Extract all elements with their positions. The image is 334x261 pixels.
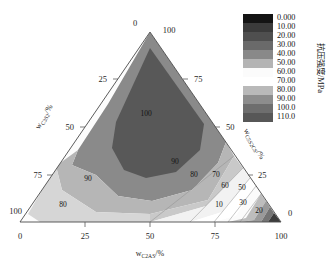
left-axis-tick-25: 25 [99, 74, 108, 84]
colorbar-label-11: 110.0 [277, 112, 295, 121]
colorbar-swatch-9 [243, 95, 273, 104]
apex-right-tick: 100 [163, 25, 176, 35]
colorbar-label-2: 20.00 [277, 31, 295, 40]
colorbar-swatch-2 [243, 32, 273, 41]
colorbar-swatches [243, 14, 273, 122]
bottom-axis-tick-100: 100 [275, 231, 288, 241]
contour-label-80-left: 80 [59, 200, 67, 209]
contour-label-10: 10 [215, 200, 223, 209]
colorbar-swatch-4 [243, 50, 273, 59]
contour-label-100: 100 [140, 109, 152, 118]
contour-label-90-right: 90 [171, 157, 179, 166]
colorbar-swatch-10 [243, 104, 273, 113]
contour-label-50: 50 [238, 183, 246, 192]
colorbar-swatch-7 [243, 77, 273, 86]
colorbar-label-3: 30.00 [277, 40, 295, 49]
right-axis-tick-25: 25 [258, 170, 267, 180]
colorbar-tick-labels: 0.000 10.00 20.00 30.00 40.00 50.00 60.0… [277, 13, 295, 121]
left-axis-tick-75: 75 [34, 170, 43, 180]
colorbar-title: 抗压强度/MPa [316, 43, 326, 93]
colorbar-label-5: 50.00 [277, 58, 295, 67]
contour-label-90-left: 90 [84, 174, 92, 183]
figure-canvas: 0 100 25 50 75 100 75 50 25 0 0 25 50 75… [0, 0, 334, 261]
right-axis-tick-0: 0 [288, 208, 292, 218]
colorbar-label-1: 10.00 [277, 22, 295, 31]
colorbar-swatch-8 [243, 86, 273, 95]
right-axis-tick-50: 50 [226, 122, 235, 132]
bottom-axis-tick-50: 50 [146, 231, 155, 241]
colorbar-swatch-1 [243, 23, 273, 32]
bottom-axis-tick-75: 75 [211, 231, 220, 241]
colorbar-swatch-6 [243, 68, 273, 77]
colorbar-title-group: 抗压强度/MPa [316, 43, 326, 93]
bottom-axis-title-sub: C2AS [142, 253, 156, 259]
contour-label-30: 30 [239, 198, 247, 207]
colorbar-swatch-0 [243, 14, 273, 23]
colorbar-swatch-3 [243, 41, 273, 50]
contour-label-60: 60 [221, 181, 229, 190]
apex-left-tick: 0 [133, 18, 137, 28]
contour-label-70: 70 [212, 170, 220, 179]
colorbar-label-10: 100.0 [277, 103, 295, 112]
colorbar-label-0: 0.000 [277, 13, 295, 22]
contour-label-80-right: 80 [190, 170, 198, 179]
contour-label-20: 20 [255, 206, 263, 215]
colorbar-label-6: 60.00 [277, 67, 295, 76]
colorbar-label-4: 40.00 [277, 49, 295, 58]
bottom-axis-title-unit: /% [155, 249, 164, 258]
left-axis-tick-100: 100 [9, 206, 22, 216]
bottom-axis-tick-0: 0 [18, 231, 22, 241]
colorbar-swatch-5 [243, 59, 273, 68]
colorbar-swatch-11 [243, 113, 273, 122]
ternary-contour-figure: 0 100 25 50 75 100 75 50 25 0 0 25 50 75… [0, 0, 334, 261]
colorbar-label-8: 80.00 [277, 85, 295, 94]
colorbar-label-9: 90.00 [277, 94, 295, 103]
bottom-axis-tick-25: 25 [81, 231, 90, 241]
left-axis-tick-50: 50 [66, 122, 75, 132]
colorbar-label-7: 70.00 [277, 76, 295, 85]
right-axis-tick-75: 75 [194, 74, 203, 84]
